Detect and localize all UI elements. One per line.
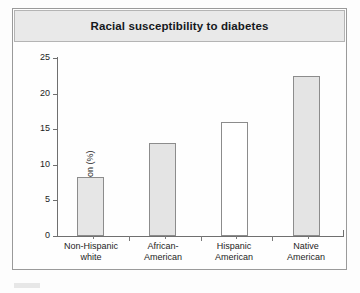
y-axis-tick [53, 165, 57, 166]
bar [293, 76, 320, 236]
x-axis-label-line: American [258, 252, 354, 263]
y-axis-tick [53, 94, 57, 95]
page-scan-artifact [14, 283, 40, 288]
y-axis-tick-label: 20 [24, 88, 50, 98]
x-axis-label: NativeAmerican [258, 241, 354, 263]
y-axis-tick [53, 236, 57, 237]
page-title: Racial susceptibility to diabetes [91, 20, 269, 32]
bar [221, 122, 248, 236]
y-axis-tick [53, 129, 57, 130]
y-axis-tick-label: 10 [24, 159, 50, 169]
y-axis-tick-label: 25 [24, 52, 50, 62]
x-axis-minor-tick [93, 236, 94, 239]
y-axis-line [57, 57, 58, 237]
y-axis-tick [53, 200, 57, 201]
y-axis-tick-label: 15 [24, 123, 50, 133]
figure-container: Racial susceptibility to diabetes Adult … [0, 0, 360, 293]
x-axis-label-line: Native [258, 241, 354, 252]
bar [77, 177, 104, 236]
chart-title-banner: Racial susceptibility to diabetes [14, 10, 345, 42]
bar [149, 143, 176, 236]
y-axis-tick-label: 0 [24, 230, 50, 240]
y-axis-tick [53, 58, 57, 59]
y-axis-tick-label: 5 [24, 194, 50, 204]
x-axis-minor-tick [236, 236, 237, 239]
x-axis-minor-tick [308, 236, 309, 239]
x-axis-end-tick [343, 230, 344, 237]
x-axis-minor-tick [165, 236, 166, 239]
